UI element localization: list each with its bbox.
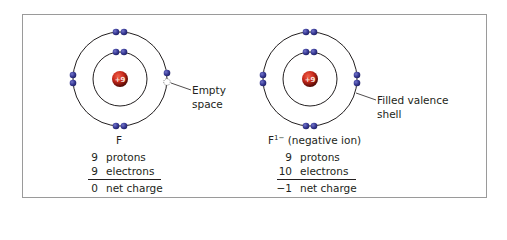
empty-electron-slot (164, 79, 171, 86)
electron (70, 80, 77, 87)
protons-label: protons (300, 151, 340, 163)
protons-count: 9 (272, 151, 292, 163)
electron (311, 49, 318, 56)
sum-rule (277, 179, 356, 180)
nucleus-charge: +9 (305, 76, 316, 84)
net-charge-value: −1 (272, 182, 292, 194)
protons-count: 9 (78, 151, 98, 163)
atom-label: F (116, 134, 122, 146)
electron (354, 72, 361, 79)
filled-valence-callout: Filled valence shell (377, 94, 448, 120)
callout-line-1: Empty (192, 84, 226, 96)
net-charge-label: net charge (300, 182, 357, 194)
net-charge-label: net charge (106, 182, 163, 194)
callout-line-2: space (192, 98, 226, 110)
sum-rule (88, 179, 161, 180)
electron (113, 49, 120, 56)
callout-line-2: shell (377, 108, 448, 120)
protons-label: protons (106, 151, 146, 163)
ion-description: (negative ion) (284, 134, 361, 146)
net-charge-value: 0 (78, 182, 98, 194)
empty-space-callout: Empty space (192, 84, 226, 110)
electrons-count: 9 (78, 165, 98, 177)
electrons-count: 10 (272, 165, 292, 177)
electron (70, 72, 77, 79)
electron (164, 70, 171, 77)
fluoride-ion: +9 (260, 29, 376, 130)
electron (260, 72, 267, 79)
electron (121, 29, 128, 36)
callout-line-1: Filled valence (377, 94, 448, 106)
fluorine-atom: +9 (70, 29, 191, 130)
electron (260, 80, 267, 87)
callout-leader-line (171, 83, 191, 90)
electron (311, 29, 318, 36)
electron (113, 123, 120, 130)
electrons-label: electrons (300, 165, 348, 177)
electron (303, 49, 310, 56)
electron (113, 29, 120, 36)
electron (354, 80, 361, 87)
electron (303, 29, 310, 36)
nucleus-charge: +9 (115, 76, 126, 84)
electron (311, 123, 318, 130)
electron (303, 123, 310, 130)
electrons-label: electrons (106, 165, 154, 177)
ion-label: F1− (negative ion) (268, 134, 361, 146)
callout-leader-line (356, 93, 376, 100)
electron (121, 49, 128, 56)
electron (121, 123, 128, 130)
ion-charge-superscript: 1− (274, 134, 284, 142)
